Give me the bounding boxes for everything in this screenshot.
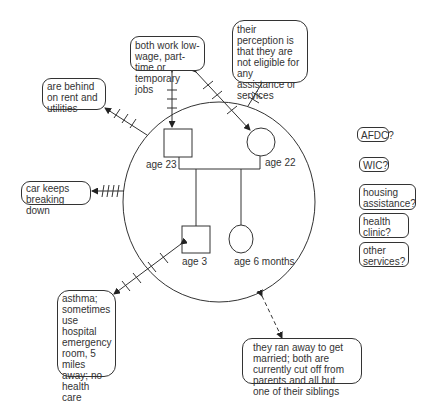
service-health-clinic: health clinic?	[359, 213, 409, 238]
father-age-label: age 23	[146, 159, 177, 170]
son-square	[182, 226, 210, 253]
household-circle	[123, 102, 315, 302]
asthma-box: asthma; sometimes use hospital emergency…	[57, 290, 116, 377]
ran-away-box: they ran away to get married; both are c…	[242, 338, 362, 384]
mother-circle	[247, 128, 275, 156]
rent-box: are behind on rent and utilities	[42, 78, 106, 110]
father-square	[164, 129, 192, 157]
service-other: other services?	[359, 242, 409, 267]
son-age-label: age 3	[182, 256, 207, 267]
jobs-box: both work low-wage, part-time or tempora…	[130, 36, 205, 71]
marriage-line	[179, 156, 260, 169]
service-housing: housing assistance?	[359, 184, 416, 210]
mother-age-label: age 22	[265, 157, 296, 168]
perception-box: their perception is that they are not el…	[232, 20, 308, 83]
car-box: car keeps breaking down	[21, 181, 91, 205]
daughter-circle	[229, 225, 253, 253]
daughter-age-label: age 6 months	[234, 256, 295, 267]
service-wic: WIC?	[359, 157, 389, 172]
service-afdc: AFDC?	[357, 127, 389, 142]
